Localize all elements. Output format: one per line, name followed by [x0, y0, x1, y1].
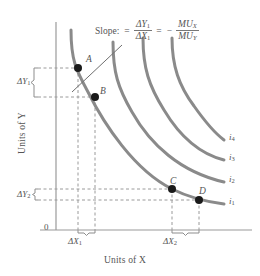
dx-sub: 1 — [147, 34, 150, 41]
delta-y1-sub: 1 — [27, 79, 30, 86]
curve-label-i3-sub: 3 — [232, 155, 235, 162]
mu-x-sub: X — [193, 22, 197, 29]
delta-x2-text: ΔX — [163, 236, 174, 246]
origin-label: 0 — [44, 222, 49, 232]
dx-text: ΔX — [136, 31, 147, 41]
point-b[interactable] — [91, 93, 99, 101]
point-c-label: C — [170, 176, 176, 186]
slope-formula-denominator-dx: ΔX1 — [134, 31, 153, 42]
delta-y2-sub: 2 — [27, 192, 30, 199]
mu-y-sub: Y — [193, 34, 197, 41]
curve-label-i2: i2 — [229, 174, 235, 184]
curve-label-i1: i1 — [229, 196, 235, 206]
delta-x1-text: ΔX — [68, 236, 79, 246]
slope-formula-equals-1: = — [123, 26, 130, 36]
curve-label-i4: i4 — [229, 132, 235, 142]
dy-sub: 1 — [147, 22, 150, 29]
dy-text: ΔY — [136, 19, 147, 29]
mu-x-text: MU — [178, 19, 193, 29]
delta-y1-text: ΔY — [17, 76, 27, 86]
x-axis-title: Units of X — [104, 255, 146, 265]
slope-formula-minus: − — [166, 26, 173, 36]
delta-x2-sub: 2 — [174, 239, 177, 246]
slope-formula-fraction-delta: ΔY1 ΔX1 — [134, 20, 153, 42]
delta-x1-sub: 1 — [79, 239, 82, 246]
delta-x2-label: ΔX2 — [163, 236, 177, 246]
point-b-label: B — [100, 86, 106, 96]
curve-label-i4-sub: 4 — [232, 135, 235, 142]
slope-formula-numerator-mux: MUX — [176, 20, 199, 31]
y-axis-title: Units of Y — [17, 98, 27, 168]
curve-label-i3: i3 — [229, 152, 235, 162]
delta-y2-text: ΔY — [17, 189, 27, 199]
figure-canvas: Slope: = ΔY1 ΔX1 = − MUX MUY Units of Y … — [0, 0, 260, 276]
slope-formula: Slope: = ΔY1 ΔX1 = − MUX MUY — [95, 20, 199, 42]
origin-label-text: 0 — [44, 222, 49, 232]
curve-label-i1-sub: 1 — [232, 199, 235, 206]
slope-formula-word: Slope: — [95, 26, 119, 36]
curve-label-i2-sub: 2 — [232, 177, 235, 184]
mu-y-text: MU — [178, 31, 193, 41]
delta-y2-label: ΔY2 — [17, 189, 31, 199]
slope-formula-fraction-mu: MUX MUY — [176, 20, 199, 42]
point-d-label: D — [199, 186, 206, 196]
point-c[interactable] — [168, 185, 176, 193]
point-a-label: A — [86, 54, 92, 64]
slope-formula-denominator-muy: MUY — [176, 31, 198, 42]
x-axis-title-text: Units of X — [104, 255, 146, 265]
slope-formula-numerator-dy: ΔY1 — [134, 20, 152, 31]
delta-y1-label: ΔY1 — [17, 76, 31, 86]
point-d[interactable] — [195, 196, 203, 204]
delta-x1-label: ΔX1 — [68, 236, 82, 246]
y-axis-title-text: Units of Y — [17, 112, 27, 154]
point-a[interactable] — [74, 64, 82, 72]
slope-formula-equals-2: = — [155, 26, 162, 36]
